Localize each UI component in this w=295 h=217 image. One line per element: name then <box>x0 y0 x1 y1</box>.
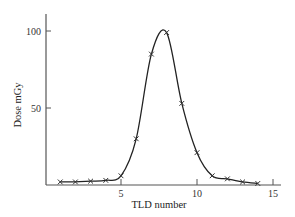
data-point-marker <box>210 173 215 178</box>
x-tick-label: 10 <box>192 188 202 199</box>
y-axis-label: Dose mGy <box>12 82 23 128</box>
y-tick-label: 50 <box>31 103 41 114</box>
x-axis-label: TLD number <box>131 199 187 210</box>
y-tick-label: 100 <box>26 26 41 37</box>
x-tick-label: 5 <box>119 188 124 199</box>
dose-curve <box>60 30 258 184</box>
x-tick-label: 15 <box>268 188 278 199</box>
data-markers <box>58 30 260 186</box>
axes: 5010051015 <box>26 14 281 199</box>
data-point-marker <box>164 30 169 35</box>
data-point-marker <box>119 173 124 178</box>
dose-chart: 5010051015 TLD number Dose mGy <box>0 0 295 217</box>
dose-curve-path <box>60 30 258 184</box>
